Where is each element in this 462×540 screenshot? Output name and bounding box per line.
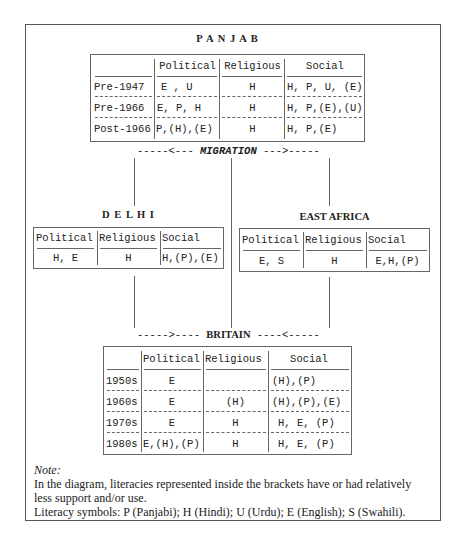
cell-political: P,(H),(E) <box>156 122 213 136</box>
east-africa-table: Political Religious Social E, S H E,H,(P… <box>239 228 430 272</box>
migration-arrow: -----<--- MIGRATION --->----- <box>137 145 320 157</box>
row-rule <box>206 390 266 391</box>
header-rule <box>271 369 349 370</box>
panjab-title: P A N J A B <box>90 33 365 44</box>
header-political: Political <box>242 233 299 247</box>
column-divider <box>219 59 220 139</box>
cell-political: E, S <box>240 254 303 268</box>
header-rule <box>206 369 266 370</box>
header-religious: Religious <box>221 59 284 73</box>
arrow-left: ----->---- <box>137 329 206 341</box>
delhi-table: Political Religious Social H, E H H,(P),… <box>33 227 224 269</box>
row-label: Post-1966 <box>94 122 151 136</box>
header-rule <box>369 250 427 251</box>
header-rule <box>157 76 217 77</box>
east-africa-title: EAST AFRICA <box>239 211 430 222</box>
header-political: Political <box>36 231 93 245</box>
note-heading: Note: <box>34 463 61 477</box>
cell-political: E <box>141 374 203 388</box>
cell-religious: H <box>221 101 284 115</box>
row-rule <box>107 390 139 391</box>
header-social: Social <box>270 352 348 366</box>
cell-political: E <box>141 395 203 409</box>
row-rule <box>95 96 152 97</box>
cell-religious: H <box>203 416 268 430</box>
row-rule <box>287 117 362 118</box>
cell-religious: H <box>203 437 268 451</box>
column-divider <box>160 231 161 265</box>
britain-arrow: ----->---- BRITAIN ----<----- <box>137 329 320 341</box>
row-rule <box>144 411 201 412</box>
row-rule <box>271 390 349 391</box>
cell-social: H,(P),(E) <box>162 251 219 265</box>
britain-label: BRITAIN <box>206 329 250 340</box>
header-political: Political <box>143 352 200 366</box>
cell-social: H, E, (P) <box>278 437 335 451</box>
cell-social: E,H,(P) <box>366 254 429 268</box>
arrow-right: ----<----- <box>250 329 319 341</box>
header-rule <box>287 76 362 77</box>
cell-religious: (H) <box>203 395 268 409</box>
cell-religious: H <box>221 80 284 94</box>
cell-social: (H),(P) <box>272 374 316 388</box>
row-rule <box>271 432 349 433</box>
row-rule <box>107 432 139 433</box>
connector-line <box>134 158 135 206</box>
delhi-title: D E L H I <box>33 209 224 220</box>
connector-line <box>134 276 135 328</box>
row-label: Pre-1947 <box>94 80 144 94</box>
cell-social: H, P,(E) <box>287 122 337 136</box>
column-divider <box>268 351 269 452</box>
cell-social: H, P,(E),(U) <box>287 101 363 115</box>
header-rule <box>37 248 94 249</box>
header-social: Social <box>368 233 406 247</box>
note-legend: Literacy symbols: P (Panjabi); H (Hindi)… <box>34 505 406 519</box>
row-rule <box>107 411 139 412</box>
row-rule <box>144 390 201 391</box>
cell-political: E, P, H <box>157 101 201 115</box>
header-rule <box>100 248 157 249</box>
row-rule <box>144 432 201 433</box>
row-label: 1950s <box>106 374 138 388</box>
row-rule <box>157 96 217 97</box>
britain-table: Political Religious Social 1950s E (H),(… <box>103 346 352 455</box>
row-label: Pre-1966 <box>94 101 144 115</box>
cell-religious: H <box>97 251 160 265</box>
note-line: In the diagram, literacies represented i… <box>34 477 411 491</box>
header-rule <box>95 76 152 77</box>
cell-social: H, E, (P) <box>278 416 335 430</box>
panjab-table: Political Religious Social Pre-1947 E , … <box>90 54 365 142</box>
header-rule <box>107 369 139 370</box>
column-divider <box>284 59 285 139</box>
row-rule <box>206 432 266 433</box>
row-rule <box>222 96 282 97</box>
row-rule <box>95 117 152 118</box>
arrow-left: -----<--- <box>137 145 200 157</box>
note-line: less support and/or use. <box>34 491 147 505</box>
row-rule <box>222 117 282 118</box>
cell-political: E , U <box>161 80 193 94</box>
header-political: Political <box>156 59 219 73</box>
column-divider <box>154 59 155 139</box>
row-rule <box>157 117 217 118</box>
header-rule <box>144 369 201 370</box>
row-rule <box>271 411 349 412</box>
cell-religious: H <box>303 254 366 268</box>
header-rule <box>243 250 300 251</box>
header-social: Social <box>286 59 364 73</box>
header-religious: Religious <box>305 233 362 247</box>
connector-line <box>231 158 232 328</box>
row-label: 1960s <box>106 395 138 409</box>
header-social: Social <box>162 231 200 245</box>
cell-political: H, E <box>34 251 97 265</box>
row-label: 1980s <box>106 437 138 451</box>
header-rule <box>222 76 282 77</box>
header-rule <box>306 250 363 251</box>
cell-political: E,(H),(P) <box>143 437 200 451</box>
connector-line <box>329 158 330 206</box>
cell-religious: H <box>221 122 284 136</box>
header-rule <box>163 248 221 249</box>
cell-social: (H),(P),(E) <box>272 395 341 409</box>
connector-line <box>329 277 330 328</box>
migration-label: MIGRATION <box>200 145 257 157</box>
